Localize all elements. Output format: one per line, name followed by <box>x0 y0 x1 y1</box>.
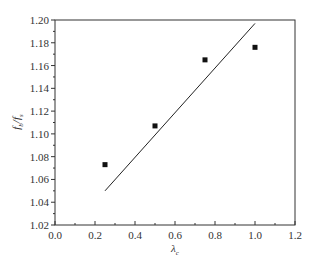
data-point <box>203 57 208 62</box>
data-series <box>103 23 258 190</box>
x-tick-label: 0.0 <box>48 229 62 241</box>
data-point <box>103 162 108 167</box>
x-tick-label: 0.8 <box>208 229 222 241</box>
y-tick-label: 1.10 <box>30 128 50 140</box>
data-point <box>153 123 158 128</box>
y-tick-label: 1.20 <box>30 14 50 26</box>
plot-border <box>55 20 295 225</box>
plot-frame <box>55 20 295 225</box>
x-axis-ticks: 0.00.20.40.60.81.01.2 <box>48 221 302 241</box>
y-tick-label: 1.06 <box>30 173 50 185</box>
data-point <box>253 45 258 50</box>
fit-line <box>105 23 255 190</box>
y-axis-label: fb/fs <box>10 114 25 130</box>
x-axis-label: λc <box>170 242 180 257</box>
x-tick-label: 0.2 <box>88 229 102 241</box>
x-tick-label: 0.6 <box>168 229 182 241</box>
y-tick-label: 1.14 <box>30 82 50 94</box>
y-tick-label: 1.04 <box>30 196 50 208</box>
chart: 1.021.041.061.081.101.121.141.161.181.20… <box>0 0 315 265</box>
y-tick-label: 1.02 <box>30 219 49 231</box>
x-tick-label: 0.4 <box>128 229 142 241</box>
y-tick-label: 1.16 <box>30 60 50 72</box>
x-tick-label: 1.0 <box>248 229 262 241</box>
y-tick-label: 1.08 <box>30 151 50 163</box>
x-tick-label: 1.2 <box>288 229 302 241</box>
y-tick-label: 1.12 <box>30 105 49 117</box>
y-tick-label: 1.18 <box>30 37 50 49</box>
y-axis-ticks: 1.021.041.061.081.101.121.141.161.181.20 <box>30 14 55 231</box>
